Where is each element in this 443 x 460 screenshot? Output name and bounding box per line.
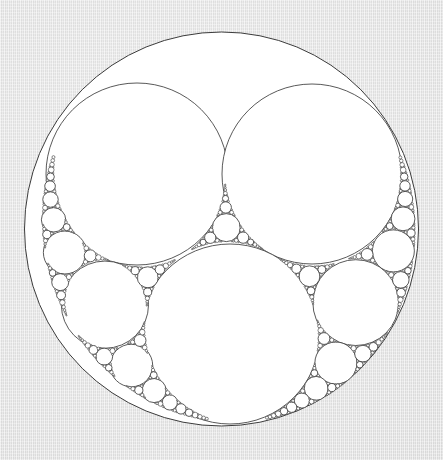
gasket-circle	[371, 354, 373, 356]
gasket-circle	[318, 266, 319, 267]
gasket-circle	[354, 372, 355, 373]
gasket-circle	[397, 312, 398, 313]
gasket-circle	[351, 346, 356, 351]
gasket-circle	[144, 322, 145, 323]
gasket-circle	[65, 289, 66, 290]
gasket-circle	[212, 231, 213, 232]
gasket-circle	[142, 384, 143, 385]
gasket-circle	[405, 290, 406, 291]
gasket-circle	[214, 241, 216, 243]
gasket-circle-group	[25, 32, 419, 426]
gasket-circle	[53, 167, 54, 168]
gasket-circle	[293, 398, 294, 399]
gasket-circle	[73, 232, 74, 233]
gasket-circle	[155, 402, 156, 403]
gasket-circle	[111, 369, 112, 370]
gasket-circle	[162, 264, 164, 266]
gasket-circle	[141, 346, 143, 348]
gasket-circle	[374, 351, 375, 352]
gasket-circle	[386, 332, 387, 333]
gasket-circle	[413, 224, 415, 226]
gasket-circle	[45, 188, 46, 189]
gasket-circle	[295, 273, 296, 274]
gasket-circle	[202, 416, 206, 420]
gasket-circle	[227, 195, 228, 196]
gasket-circle	[398, 296, 400, 298]
gasket-circle	[142, 345, 147, 350]
gasket-circle	[87, 261, 89, 263]
gasket-circle	[290, 268, 292, 270]
gasket-circle	[186, 407, 188, 409]
gasket-circle	[227, 200, 229, 202]
gasket-circle	[371, 249, 373, 251]
gasket-circle	[394, 209, 395, 210]
gasket-circle	[203, 237, 205, 239]
gasket-circle	[191, 416, 193, 418]
gasket-circle	[316, 400, 317, 401]
gasket-circle	[65, 219, 67, 221]
gasket-circle	[44, 193, 46, 195]
gasket-circle	[54, 189, 55, 190]
gasket-circle	[314, 400, 316, 402]
gasket-circle	[398, 302, 402, 306]
gasket-circle	[359, 368, 360, 369]
gasket-circle	[324, 265, 325, 266]
gasket-circle	[191, 249, 192, 250]
gasket-circle	[238, 241, 240, 243]
gasket-circle	[216, 237, 217, 238]
gasket-circle	[399, 192, 400, 193]
gasket-circle	[88, 248, 90, 250]
gasket-circle	[349, 258, 350, 259]
gasket-circle	[95, 357, 97, 359]
gasket-circle	[239, 231, 240, 232]
gasket-circle	[231, 241, 232, 242]
gasket-circle	[274, 413, 275, 414]
gasket-circle	[335, 384, 336, 385]
gasket-circle	[225, 184, 226, 185]
apollonian-gasket	[0, 0, 443, 460]
gasket-circle	[389, 220, 392, 223]
gasket-circle	[96, 253, 98, 255]
gasket-circle	[151, 266, 153, 268]
gasket-circle	[222, 212, 223, 213]
gasket-circle	[318, 333, 320, 335]
gasket-circle	[142, 326, 145, 329]
gasket-circle	[228, 212, 229, 213]
gasket-circle	[134, 390, 135, 391]
gasket-circle	[208, 231, 210, 233]
gasket-circle	[92, 354, 93, 355]
gasket-circle	[56, 293, 57, 294]
gasket-circle	[408, 274, 411, 277]
gasket-circle	[49, 270, 50, 271]
gasket-circle	[130, 270, 131, 271]
gasket-circle	[409, 188, 410, 189]
gasket-circle	[309, 398, 311, 400]
gasket-circle	[312, 369, 313, 370]
gasket-circle	[410, 268, 411, 269]
gasket-circle	[360, 252, 362, 254]
gasket-circle	[49, 166, 50, 167]
gasket-circle	[43, 224, 44, 225]
gasket-circle	[52, 172, 54, 174]
gasket-circle	[165, 388, 166, 389]
gasket-circle	[309, 403, 311, 405]
gasket-circle	[158, 277, 160, 279]
gasket-circle	[382, 231, 383, 232]
gasket-circle	[407, 179, 409, 181]
gasket-circle	[306, 289, 307, 290]
gasket-circle	[146, 305, 147, 306]
gasket-circle	[180, 402, 181, 403]
gasket-circle	[85, 250, 87, 252]
gasket-circle	[314, 363, 315, 364]
gasket-circle	[63, 309, 66, 312]
gasket-circle	[101, 257, 104, 260]
gasket-circle	[402, 297, 404, 299]
gasket-circle	[271, 413, 275, 417]
gasket-circle	[54, 206, 56, 208]
gasket-circle	[300, 265, 301, 266]
gasket-circle	[141, 267, 143, 269]
gasket-circle	[142, 379, 166, 403]
gasket-circle	[403, 231, 404, 232]
gasket-circle	[410, 237, 411, 238]
gasket-circle	[223, 195, 224, 196]
